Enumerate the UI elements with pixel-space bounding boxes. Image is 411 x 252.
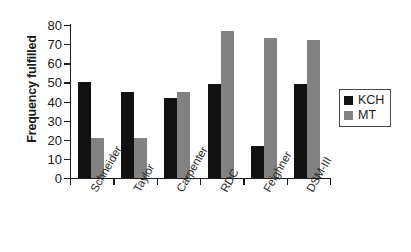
x-axis-tick bbox=[70, 179, 71, 185]
bar-kch-taylor bbox=[121, 92, 134, 178]
y-axis-tick bbox=[64, 102, 70, 103]
y-axis-tick-label: 40 bbox=[16, 95, 62, 108]
bar-kch-carpenter bbox=[164, 98, 177, 178]
y-axis-tick-label: 60 bbox=[16, 57, 62, 70]
x-axis-tick bbox=[157, 179, 158, 185]
bar-mt-rdc bbox=[221, 31, 234, 178]
legend-item-mt: MT bbox=[344, 108, 384, 123]
legend-label: MT bbox=[358, 109, 376, 122]
y-axis-tick bbox=[64, 178, 70, 179]
y-axis-tick-labels: 01020304050607080 bbox=[12, 0, 62, 252]
legend-swatch-icon bbox=[344, 111, 353, 120]
bar-group bbox=[251, 25, 277, 178]
y-axis-tick-label: 50 bbox=[16, 76, 62, 89]
x-axis-tick bbox=[113, 179, 114, 185]
bar-group bbox=[78, 25, 104, 178]
y-axis-tick bbox=[64, 140, 70, 141]
legend-label: KCH bbox=[358, 94, 384, 107]
bar-group bbox=[208, 25, 234, 178]
bar-kch-dsm-iii bbox=[294, 84, 307, 178]
x-axis-tick bbox=[243, 179, 244, 185]
bar-chart: Frequency fulfilled 01020304050607080 Sc… bbox=[0, 0, 411, 252]
y-axis-tick-label: 10 bbox=[16, 152, 62, 165]
bar-kch-feighner bbox=[251, 146, 264, 179]
y-axis-tick-label: 80 bbox=[16, 19, 62, 32]
y-axis-tick bbox=[64, 25, 70, 26]
x-axis-tick bbox=[287, 179, 288, 185]
bar-group bbox=[164, 25, 190, 178]
y-axis-tick-label: 0 bbox=[16, 172, 62, 185]
legend-item-kch: KCH bbox=[344, 93, 384, 108]
bar-mt-feighner bbox=[264, 38, 277, 178]
legend: KCHMT bbox=[339, 89, 391, 127]
y-axis-tick bbox=[64, 82, 70, 83]
x-axis-tick bbox=[200, 179, 201, 185]
y-axis-tick bbox=[64, 63, 70, 64]
bar-mt-dsm-iii bbox=[307, 40, 320, 178]
y-axis-tick-label: 70 bbox=[16, 38, 62, 51]
y-axis-tick bbox=[64, 44, 70, 45]
y-axis-tick-label: 30 bbox=[16, 114, 62, 127]
y-axis-tick bbox=[64, 159, 70, 160]
bar-kch-schneider bbox=[78, 82, 91, 178]
x-axis-tick bbox=[330, 179, 331, 185]
y-axis-tick-label: 20 bbox=[16, 133, 62, 146]
y-axis-tick bbox=[64, 121, 70, 122]
legend-swatch-icon bbox=[344, 96, 353, 105]
bar-group bbox=[294, 25, 320, 178]
bar-group bbox=[121, 25, 147, 178]
bar-kch-rdc bbox=[208, 84, 221, 178]
